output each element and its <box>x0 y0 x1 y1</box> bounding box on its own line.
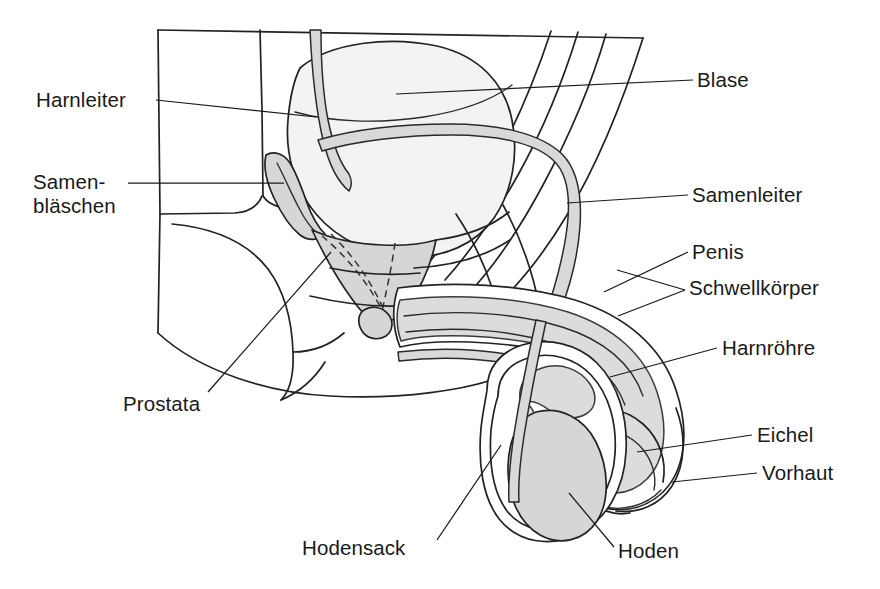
label-samenleiter: Samenleiter <box>692 183 803 207</box>
label-samenblaeschen-line2: bläschen <box>33 194 116 218</box>
label-samenleiter-text: Samenleiter <box>692 183 803 206</box>
label-hoden-text: Hoden <box>618 539 679 562</box>
label-samenblaeschen-line1: Samen- <box>33 170 116 194</box>
label-samenblaeschen: Samen- bläschen <box>33 170 116 218</box>
leader-samenleiter <box>567 195 688 203</box>
label-blase: Blase <box>697 68 749 92</box>
label-hodensack-text: Hodensack <box>302 536 405 559</box>
label-hoden: Hoden <box>618 539 679 563</box>
label-penis-text: Penis <box>692 240 744 263</box>
leader-prostata <box>208 252 331 392</box>
label-vorhaut: Vorhaut <box>762 461 833 485</box>
label-harnroehre: Harnröhre <box>722 336 815 360</box>
label-prostata-text: Prostata <box>123 392 200 415</box>
anatomy-figure: .ln { fill:none; stroke:#222222; stroke-… <box>0 0 880 589</box>
label-eichel: Eichel <box>757 423 813 447</box>
label-harnleiter: Harnleiter <box>36 88 126 112</box>
scrotum-structure <box>480 342 626 542</box>
leader-schwellkoerper-2 <box>617 270 685 290</box>
label-blase-text: Blase <box>697 68 749 91</box>
bulbourethral-gland <box>359 307 392 339</box>
label-schwellkoerper-text: Schwellkörper <box>689 276 819 299</box>
label-harnleiter-text: Harnleiter <box>36 88 126 111</box>
label-vorhaut-text: Vorhaut <box>762 461 833 484</box>
label-prostata: Prostata <box>123 392 200 416</box>
label-schwellkoerper: Schwellkörper <box>689 276 819 300</box>
label-eichel-text: Eichel <box>757 423 813 446</box>
label-hodensack: Hodensack <box>302 536 405 560</box>
label-penis: Penis <box>692 240 744 264</box>
leader-vorhaut <box>672 473 757 482</box>
leader-penis <box>604 252 688 292</box>
leader-schwellkoerper <box>618 290 685 316</box>
label-harnroehre-text: Harnröhre <box>722 336 815 359</box>
